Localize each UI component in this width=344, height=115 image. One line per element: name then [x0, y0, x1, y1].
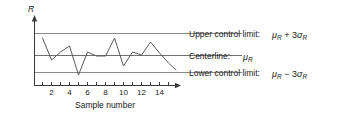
legend-item-upper-control-limit: Upper control limit: μR + 3σR	[189, 29, 307, 41]
legend-item-centerline: Centerline: μR	[189, 51, 253, 63]
x-tick-label: 14	[155, 88, 164, 97]
centerline-formula: μR	[242, 52, 253, 64]
y-axis-arrow-icon	[32, 15, 37, 22]
control-chart-svg: R	[0, 0, 344, 115]
x-tick-label: 8	[103, 88, 108, 97]
x-axis-tick-labels: 2 4 6 8 10 12 14	[49, 88, 164, 97]
x-tick-label: 4	[67, 88, 72, 97]
centerline-label: Centerline:	[189, 51, 230, 61]
x-axis-ticks	[43, 82, 169, 86]
x-axis-arrow-icon	[175, 83, 181, 88]
legend-item-lower-control-limit: Lower control limit: μR − 3σR	[189, 68, 307, 80]
x-tick-label: 12	[137, 88, 146, 97]
y-axis	[32, 15, 37, 86]
r-control-chart-figure: R	[0, 0, 344, 115]
upper-control-limit-formula: μR + 3σR	[271, 30, 307, 42]
sample-range-series	[43, 38, 177, 75]
x-axis-title: Sample number	[75, 100, 135, 110]
lower-control-limit-label: Lower control limit:	[189, 68, 260, 78]
upper-control-limit-label: Upper control limit:	[189, 29, 260, 39]
y-axis-label: R	[28, 4, 34, 14]
x-tick-label: 2	[49, 88, 54, 97]
x-tick-label: 6	[85, 88, 90, 97]
x-tick-label: 10	[119, 88, 128, 97]
lower-control-limit-formula: μR − 3σR	[271, 69, 307, 81]
